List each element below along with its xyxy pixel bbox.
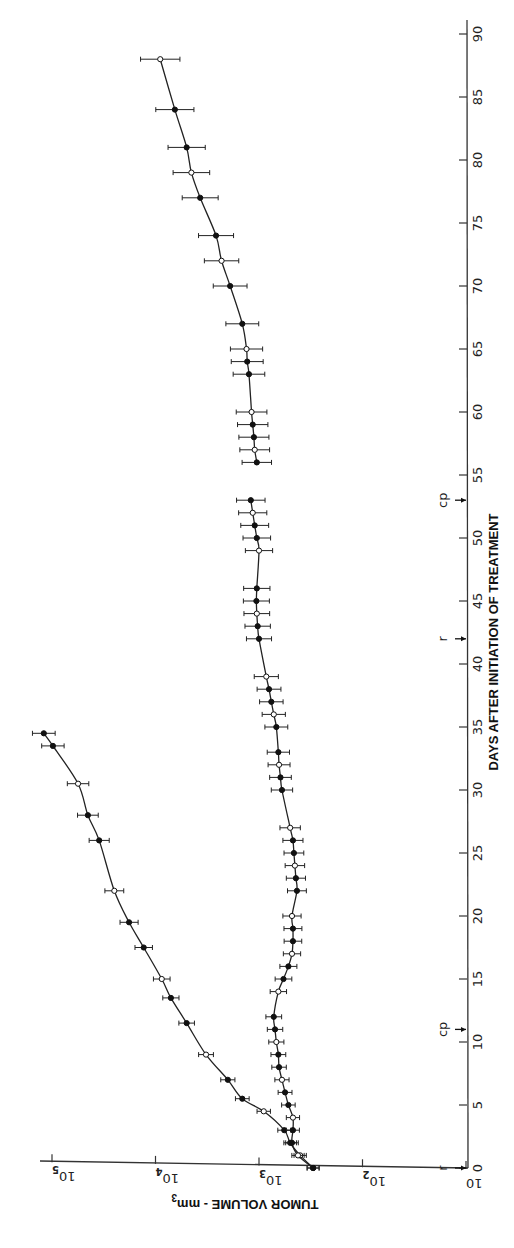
data-point [261, 1109, 266, 1114]
data-point [276, 1052, 281, 1057]
data-point [240, 1096, 245, 1101]
data-point [272, 1027, 277, 1032]
data-point [290, 1115, 295, 1120]
data-point [276, 762, 281, 767]
data-point [252, 447, 257, 452]
volume-axis-line [40, 1161, 468, 1168]
treatment-marker-label: cp [435, 492, 450, 507]
days-tick-label: 50 [470, 530, 485, 547]
data-point [251, 435, 256, 440]
data-point [158, 57, 163, 62]
data-point [281, 976, 286, 981]
data-point [213, 233, 218, 238]
days-tick-label: 85 [470, 89, 485, 106]
data-point [50, 743, 55, 748]
data-point [290, 939, 295, 944]
data-point [245, 359, 250, 364]
volume-tick-label: 102 [362, 1169, 386, 1189]
data-point [244, 346, 249, 351]
days-tick-label: 45 [470, 593, 485, 610]
days-axis-title: DAYS AFTER INITIATION OF TREATMENT [486, 513, 501, 770]
treatment-marker-label: r [435, 635, 450, 641]
treatment-marker-label: cp [435, 1022, 450, 1037]
data-point [256, 548, 261, 553]
days-tick-label: 90 [470, 26, 485, 43]
data-point [255, 624, 260, 629]
data-point [264, 674, 269, 679]
data-point [292, 863, 297, 868]
data-point [189, 170, 194, 175]
days-tick-label: 65 [470, 341, 485, 358]
data-point [256, 636, 261, 641]
data-point [290, 1128, 295, 1133]
data-point [41, 731, 46, 736]
data-point [276, 750, 281, 755]
data-point [279, 787, 284, 792]
data-point [246, 372, 251, 377]
treatment-marker-label: r [435, 1165, 450, 1171]
data-point [141, 945, 146, 950]
days-tick-label: 25 [470, 845, 485, 862]
data-point [240, 321, 245, 326]
days-tick-label: 10 [470, 1034, 485, 1051]
data-point [252, 523, 257, 528]
arrow-head-icon [461, 636, 466, 641]
days-axis-line [467, 20, 468, 1168]
data-point [254, 460, 259, 465]
arrow-head-icon [461, 1027, 466, 1032]
days-tick-label: 55 [470, 467, 485, 484]
data-point [288, 825, 293, 830]
data-point [112, 888, 117, 893]
data-point [248, 498, 253, 503]
data-point [276, 1065, 281, 1070]
data-point [289, 1140, 294, 1145]
data-point [250, 510, 255, 515]
data-point [286, 964, 291, 969]
data-point [294, 888, 299, 893]
days-tick-label: 0 [470, 1164, 485, 1172]
days-tick-label: 20 [470, 908, 485, 925]
data-point [219, 258, 224, 263]
treatment-markers: rcprcp [435, 492, 467, 1170]
days-tick-label: 30 [470, 782, 485, 799]
days-tick-label: 70 [470, 278, 485, 295]
data-series [32, 57, 319, 1171]
series-2 [141, 57, 272, 465]
data-point [97, 838, 102, 843]
data-point [286, 1102, 291, 1107]
volume-axis-title: TUMOR VOLUME - mm3 [171, 1192, 319, 1212]
series-0 [32, 731, 319, 1171]
days-axis-ticks: 051015202530354045505560657075808590 [459, 26, 485, 1172]
days-tick-label: 75 [470, 215, 485, 232]
data-point [225, 1077, 230, 1082]
tumor-volume-chart: 051015202530354045505560657075808590 DAY… [0, 0, 514, 1248]
data-point [184, 145, 189, 150]
data-point [278, 775, 283, 780]
data-point [159, 976, 164, 981]
data-point [249, 409, 254, 414]
data-point [172, 107, 177, 112]
volume-tick-label: 103 [259, 1168, 283, 1188]
data-point [293, 876, 298, 881]
volume-tick-label: 10 [466, 1176, 483, 1191]
data-point [266, 687, 271, 692]
data-point [85, 813, 90, 818]
data-point [311, 1165, 316, 1170]
days-tick-label: 35 [470, 719, 485, 736]
data-point [279, 1077, 284, 1082]
data-point [274, 1039, 279, 1044]
data-point [291, 850, 296, 855]
volume-tick-label: 105 [52, 1164, 76, 1184]
data-point [290, 838, 295, 843]
series-curve [44, 733, 313, 1168]
data-point [184, 1021, 189, 1026]
data-point [274, 724, 279, 729]
data-point [228, 283, 233, 288]
data-point [282, 1090, 287, 1095]
data-point [126, 920, 131, 925]
data-point [269, 699, 274, 704]
data-point [276, 989, 281, 994]
volume-axis-ticks: 10102103104105 [52, 1154, 483, 1191]
series-1 [237, 498, 320, 1171]
days-tick-label: 5 [470, 1101, 485, 1109]
